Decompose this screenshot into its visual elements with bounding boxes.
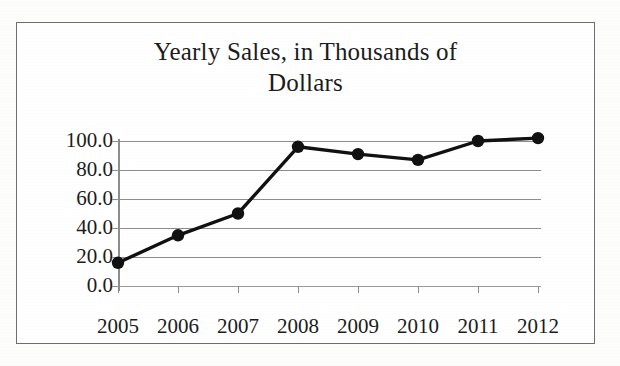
- x-tick-label: 2009: [327, 313, 389, 339]
- x-tick-label: 2008: [267, 313, 329, 339]
- data-point-marker: [172, 229, 184, 241]
- y-tick-label: 0.0: [43, 275, 113, 296]
- x-tick-label: 2005: [87, 313, 149, 339]
- y-axis-tick-labels: 100.0 80.0 60.0 40.0 20.0 0.0: [43, 141, 113, 286]
- x-tick-label: 2006: [147, 313, 209, 339]
- chart-frame: Yearly Sales, in Thousands of Dollars 10…: [16, 22, 595, 344]
- data-point-marker: [232, 207, 244, 219]
- data-point-marker: [292, 141, 304, 153]
- y-tick-label: 60.0: [43, 188, 113, 209]
- x-tick-label: 2012: [507, 313, 569, 339]
- data-point-marker: [352, 148, 364, 160]
- y-tick-label: 80.0: [43, 159, 113, 180]
- x-tick-label: 2010: [387, 313, 449, 339]
- y-tick-label: 20.0: [43, 246, 113, 267]
- data-series-line: [118, 141, 548, 293]
- y-tick-label: 40.0: [43, 217, 113, 238]
- data-point-marker: [532, 132, 544, 144]
- plot-area: [118, 141, 541, 286]
- data-point-marker: [112, 257, 124, 269]
- y-tick-label: 100.0: [43, 130, 113, 151]
- data-point-marker: [472, 135, 484, 147]
- x-axis-tick-labels: 2005 2006 2007 2008 2009 2010 2011 2012: [118, 313, 558, 345]
- chart-page: Yearly Sales, in Thousands of Dollars 10…: [0, 0, 620, 366]
- chart-title: Yearly Sales, in Thousands of Dollars: [17, 37, 594, 98]
- x-tick-label: 2007: [207, 313, 269, 339]
- x-tick-label: 2011: [447, 313, 509, 339]
- data-point-marker: [412, 154, 424, 166]
